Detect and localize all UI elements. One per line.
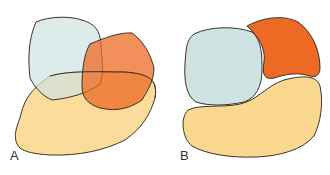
panel-a-label: A [10, 148, 19, 163]
blue-shape-b [185, 28, 262, 105]
panel-a [15, 17, 155, 155]
panel-b-label: B [180, 148, 189, 163]
diagram: A B [0, 0, 330, 175]
panel-b [183, 18, 322, 158]
shapes-canvas [0, 0, 330, 175]
